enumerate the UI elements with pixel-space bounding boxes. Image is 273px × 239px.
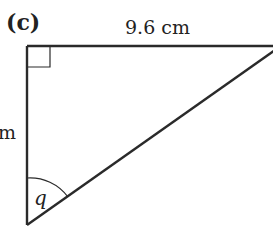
right-angle-marker [27,46,50,67]
hypotenuse [27,50,273,225]
angle-label: q [34,186,47,210]
left-side-label: m [0,121,16,143]
triangle [27,46,273,225]
part-label: (c) [6,9,40,35]
right-triangle-diagram: (c) 9.6 cm m q [0,0,273,239]
top-side-label: 9.6 cm [125,16,190,38]
